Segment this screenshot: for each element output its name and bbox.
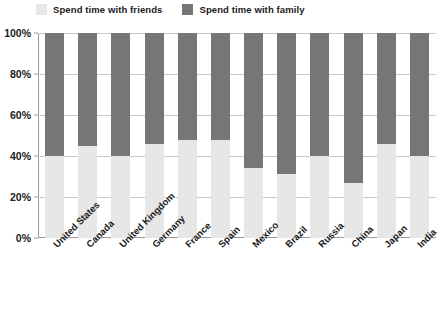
y-tick-label: 60%: [10, 109, 31, 121]
bar-column[interactable]: [310, 33, 329, 238]
legend-swatch-friends-icon: [36, 4, 47, 15]
y-tick-label: 0%: [16, 232, 31, 244]
bar-segment-friends[interactable]: [211, 140, 230, 238]
stacked-bar-chart: Spend time with friends Spend time with …: [0, 0, 444, 316]
legend-label-friends: Spend time with friends: [53, 4, 162, 15]
bar-segment-friends[interactable]: [310, 156, 329, 238]
bar-column[interactable]: [45, 33, 64, 238]
bar-segment-friends[interactable]: [244, 168, 263, 238]
bar-segment-family[interactable]: [310, 33, 329, 156]
bar-segment-family[interactable]: [111, 33, 130, 156]
bar-segment-family[interactable]: [78, 33, 97, 146]
y-tick-label: 80%: [10, 68, 31, 80]
bar-segment-family[interactable]: [410, 33, 429, 156]
y-tick-label: 20%: [10, 191, 31, 203]
chart-legend: Spend time with friends Spend time with …: [36, 1, 305, 17]
bar-column[interactable]: [178, 33, 197, 238]
legend-swatch-family-icon: [182, 4, 193, 15]
legend-item-friends: Spend time with friends: [36, 4, 162, 15]
x-axis: United StatesCanadaUnited KingdomGermany…: [38, 239, 436, 316]
y-axis: 0%20%40%60%80%100%: [0, 33, 38, 238]
bar-column[interactable]: [211, 33, 230, 238]
y-tick-label: 100%: [4, 27, 31, 39]
bar-column[interactable]: [377, 33, 396, 238]
bar-column[interactable]: [344, 33, 363, 238]
bar-column[interactable]: [111, 33, 130, 238]
y-tick-label: 40%: [10, 150, 31, 162]
y-axis-line: [38, 33, 39, 238]
bar-segment-family[interactable]: [45, 33, 64, 156]
bar-column[interactable]: [410, 33, 429, 238]
bar-segment-family[interactable]: [277, 33, 296, 174]
bar-segment-friends[interactable]: [410, 156, 429, 238]
bar-column[interactable]: [244, 33, 263, 238]
bar-column[interactable]: [277, 33, 296, 238]
legend-item-family: Spend time with family: [182, 4, 304, 15]
bar-segment-friends[interactable]: [377, 144, 396, 238]
legend-label-family: Spend time with family: [199, 4, 304, 15]
bar-segment-family[interactable]: [244, 33, 263, 168]
bar-segment-friends[interactable]: [277, 174, 296, 238]
bar-segment-family[interactable]: [211, 33, 230, 140]
bar-segment-friends[interactable]: [45, 156, 64, 238]
bar-segment-family[interactable]: [377, 33, 396, 144]
bar-segment-family[interactable]: [344, 33, 363, 183]
bar-segment-family[interactable]: [145, 33, 164, 144]
bar-segment-family[interactable]: [178, 33, 197, 140]
